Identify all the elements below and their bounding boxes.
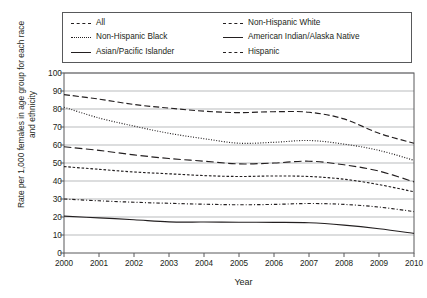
series-line (64, 95, 414, 144)
series-line (64, 199, 414, 212)
x-axis-tick-label: 2002 (117, 259, 151, 268)
x-axis-tick-label: 2006 (257, 259, 291, 268)
x-axis-tick-label: 2010 (397, 259, 427, 268)
series-line (64, 107, 414, 160)
series-line (64, 147, 414, 182)
series-line (64, 167, 414, 192)
x-axis-tick-label: 2001 (82, 259, 116, 268)
x-axis-title: Year (0, 277, 427, 287)
chart-container: All Non-Hispanic White Non-Hispanic Blac… (0, 0, 427, 298)
x-axis-tick-label: 2008 (327, 259, 361, 268)
plot-area (0, 0, 427, 298)
x-axis-tick-label: 2005 (222, 259, 256, 268)
x-axis-tick-label: 2007 (292, 259, 326, 268)
x-axis-tick-label: 2003 (152, 259, 186, 268)
x-axis-tick-label: 2004 (187, 259, 221, 268)
x-axis-tick-label: 2000 (47, 259, 81, 268)
series-line (64, 216, 414, 233)
x-axis-tick-label: 2009 (362, 259, 396, 268)
x-axis-title-text: Year (234, 277, 252, 287)
